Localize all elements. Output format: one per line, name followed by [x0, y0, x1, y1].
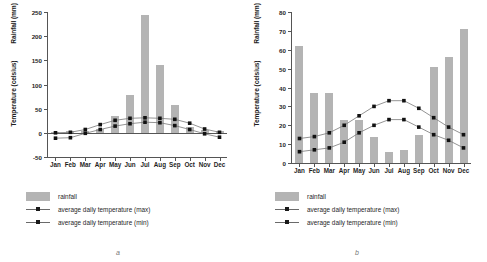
y-axis-tick: [44, 109, 48, 110]
y-axis-tick-label-0: 0: [283, 160, 286, 167]
y-axis-title-temperature-a: Temperature (celsius): [10, 44, 17, 144]
rainfall-bar-oct: [430, 67, 438, 163]
chart-panel-b: Rainfall (mm) Temperature (celsius) 0102…: [243, 0, 487, 262]
rainfall-bar-dec: [460, 29, 468, 163]
line-marker-swatch-icon: [26, 218, 50, 227]
x-axis-label-sep: Sep: [169, 161, 181, 168]
data-point-marker: [98, 123, 102, 127]
x-axis-label-jul: Jul: [140, 161, 149, 168]
plot-area-b: 01020304050607080JanFebMarAprMayJunJulAu…: [291, 12, 471, 164]
data-point-marker: [402, 99, 406, 103]
temperature-line-max: [300, 101, 464, 139]
x-axis-label-may: May: [353, 167, 365, 174]
x-axis-label-nov: Nov: [199, 161, 211, 168]
rainfall-bar-dec: [216, 131, 224, 132]
y-axis-tick: [288, 144, 292, 145]
y-axis-tick-label-200: 200: [32, 33, 42, 40]
x-axis-label-oct: Oct: [184, 161, 195, 168]
data-point-marker: [54, 136, 58, 140]
data-point-marker: [372, 124, 376, 128]
data-point-marker: [218, 135, 222, 139]
x-axis-label-nov: Nov: [443, 167, 455, 174]
y-axis-tick: [288, 88, 292, 89]
legend-item-temp-max-b: average daily temperature (max): [275, 203, 399, 216]
rainfall-bar-may: [355, 120, 363, 163]
legend-label: average daily temperature (min): [58, 219, 149, 226]
rainfall-bar-feb: [310, 93, 318, 163]
rainfall-bar-may: [111, 116, 119, 132]
rainfall-bar-jan: [51, 132, 59, 133]
legend-item-rainfall-a: rainfall: [26, 190, 150, 203]
y-axis-tick-label-10: 10: [279, 141, 286, 148]
y-axis-tick: [288, 12, 292, 13]
climate-figure: Rainfall (mm) Temperature (celsius) -500…: [0, 0, 487, 262]
rainfall-swatch-icon: [26, 192, 50, 201]
rainfall-bar-mar: [325, 93, 333, 163]
chart-panel-a: Rainfall (mm) Temperature (celsius) -500…: [0, 0, 243, 262]
rainfall-bar-jun: [126, 95, 134, 133]
rainfall-bar-jul: [141, 15, 149, 132]
x-axis-label-sep: Sep: [413, 167, 425, 174]
y-axis-tick: [288, 125, 292, 126]
x-axis-label-jul: Jul: [384, 167, 393, 174]
rainfall-bar-apr: [340, 120, 348, 163]
legend-label: rainfall: [307, 193, 326, 200]
x-axis-label-jun: Jun: [368, 167, 379, 174]
rainfall-bar-mar: [81, 131, 89, 133]
rainfall-bar-jun: [370, 137, 378, 163]
y-axis-tick-label-150: 150: [32, 57, 42, 64]
legend-b: rainfall average daily temperature (max)…: [275, 190, 399, 229]
y-axis-tick-label-50: 50: [279, 65, 286, 72]
x-axis-label-apr: Apr: [95, 161, 106, 168]
legend-a: rainfall average daily temperature (max)…: [26, 190, 150, 229]
y-axis-titles-b: Rainfall (mm) Temperature (celsius): [246, 8, 268, 163]
y-axis-tick: [44, 60, 48, 61]
zero-line: [48, 133, 227, 134]
legend-label: rainfall: [58, 193, 77, 200]
x-axis-label-mar: Mar: [80, 161, 91, 168]
y-axis-tick: [288, 163, 292, 164]
legend-item-temp-max-a: average daily temperature (max): [26, 203, 150, 216]
legend-label: average daily temperature (max): [58, 206, 150, 213]
data-point-marker: [69, 136, 73, 140]
rainfall-bar-jan: [295, 46, 303, 163]
x-axis-label-feb: Feb: [309, 167, 320, 174]
y-axis-tick: [44, 157, 48, 158]
rainfall-bar-nov: [445, 57, 453, 163]
y-axis-tick-label-70: 70: [279, 27, 286, 34]
y-axis-title-temperature-b: Temperature (celsius): [253, 44, 260, 144]
legend-label: average daily temperature (max): [307, 206, 399, 213]
legend-item-temp-min-b: average daily temperature (min): [275, 216, 399, 229]
y-axis-tick: [288, 106, 292, 107]
rainfall-swatch-icon: [275, 192, 299, 201]
x-axis-label-jan: Jan: [294, 167, 305, 174]
temperature-line-min: [300, 120, 464, 152]
line-marker-swatch-icon: [275, 218, 299, 227]
y-axis-tick-label-80: 80: [279, 9, 286, 16]
y-axis-tick: [44, 12, 48, 13]
y-axis-tick: [44, 36, 48, 37]
rainfall-bar-sep: [415, 135, 423, 163]
plot-area-a: -50050100150200250JanFebMarAprMayJunJulA…: [47, 12, 227, 158]
y-axis-tick-label--50: -50: [33, 154, 42, 161]
temperature-lines-a: [48, 12, 227, 157]
data-point-marker: [417, 125, 421, 129]
y-axis-tick: [288, 31, 292, 32]
rainfall-bar-oct: [186, 127, 194, 133]
y-axis-tick-label-100: 100: [32, 81, 42, 88]
data-point-marker: [357, 114, 361, 118]
x-axis-label-oct: Oct: [428, 167, 439, 174]
temperature-line-min: [56, 122, 220, 138]
legend-item-rainfall-b: rainfall: [275, 190, 399, 203]
panel-caption-b: b: [355, 249, 359, 256]
y-axis-tick-label-250: 250: [32, 9, 42, 16]
temperature-line-max: [56, 118, 220, 133]
data-point-marker: [372, 105, 376, 109]
rainfall-bar-aug: [400, 150, 408, 163]
y-axis-tick-label-60: 60: [279, 46, 286, 53]
x-axis-label-jun: Jun: [124, 161, 135, 168]
y-axis-tick: [288, 50, 292, 51]
x-axis-label-may: May: [109, 161, 121, 168]
legend-label: average daily temperature (min): [307, 219, 398, 226]
y-axis-tick-label-20: 20: [279, 122, 286, 129]
